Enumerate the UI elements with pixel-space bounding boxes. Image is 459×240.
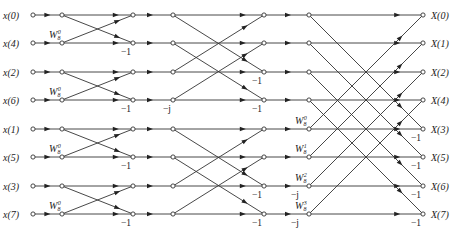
node-circle bbox=[307, 41, 311, 45]
twiddle-factor-label: W28 bbox=[295, 172, 307, 184]
node-circle bbox=[262, 155, 266, 159]
input-label: x(5) bbox=[2, 152, 20, 164]
arrow-head-icon bbox=[147, 212, 153, 216]
arrow-head-icon bbox=[240, 127, 246, 131]
node-circle bbox=[60, 70, 64, 74]
arrow-head-icon bbox=[241, 167, 247, 172]
node-circle bbox=[131, 98, 135, 102]
arrow-head-icon bbox=[285, 13, 291, 17]
arrow-head-icon bbox=[114, 91, 120, 95]
fft-butterfly-diagram: x(0)x(4)x(2)x(6)x(1)x(5)x(3)x(7)−1−1−1−1… bbox=[0, 0, 459, 240]
arrow-head-icon bbox=[44, 98, 50, 102]
arrow-head-icon bbox=[394, 98, 400, 102]
arrow-head-icon bbox=[114, 77, 120, 81]
output-label: X(0) bbox=[430, 10, 449, 22]
minus-one-label: −1 bbox=[252, 104, 262, 114]
node-circle bbox=[262, 127, 266, 131]
node-circle bbox=[31, 155, 35, 159]
arrow-head-icon bbox=[114, 191, 120, 195]
arrow-head-icon bbox=[147, 98, 153, 102]
arrow-head-icon bbox=[113, 13, 119, 17]
twiddle-factor-label: W08 bbox=[49, 143, 61, 155]
output-label: X(7) bbox=[430, 209, 449, 221]
output-label: X(2) bbox=[430, 67, 449, 79]
arrow-head-icon bbox=[147, 41, 153, 45]
node-circle bbox=[262, 212, 266, 216]
arrow-head-icon bbox=[285, 212, 291, 216]
arrow-head-icon bbox=[240, 184, 246, 188]
node-circle bbox=[131, 155, 135, 159]
node-circle bbox=[131, 212, 135, 216]
minus-one-label: −1 bbox=[252, 190, 262, 200]
minus-one-label: −1 bbox=[411, 190, 421, 200]
node-circle bbox=[171, 127, 175, 131]
arrow-head-icon bbox=[394, 155, 400, 159]
node-circle bbox=[131, 41, 135, 45]
arrow-head-icon bbox=[147, 70, 153, 74]
arrow-head-icon bbox=[113, 212, 119, 216]
arrow-head-icon bbox=[285, 155, 291, 159]
arrow-head-icon bbox=[241, 53, 247, 58]
minus-one-label: −1 bbox=[121, 47, 131, 57]
output-label: X(3) bbox=[430, 124, 449, 136]
arrow-head-icon bbox=[44, 212, 50, 216]
arrow-head-icon bbox=[44, 155, 50, 159]
arrow-head-icon bbox=[240, 13, 246, 17]
node-circle bbox=[31, 98, 35, 102]
minus-one-label: −1 bbox=[252, 76, 262, 86]
node-circle bbox=[262, 98, 266, 102]
node-circle bbox=[171, 155, 175, 159]
node-circle bbox=[421, 70, 425, 74]
node-circle bbox=[307, 13, 311, 17]
twiddle-factor-label: W08 bbox=[49, 29, 61, 41]
node-circle bbox=[262, 13, 266, 17]
input-label: x(4) bbox=[2, 38, 20, 50]
arrow-head-icon bbox=[240, 41, 246, 45]
node-circle bbox=[171, 98, 175, 102]
minus-one-label: −1 bbox=[252, 218, 262, 228]
twiddle-factor-label: W08 bbox=[49, 200, 61, 212]
node-circle bbox=[307, 212, 311, 216]
node-circle bbox=[131, 184, 135, 188]
node-circle bbox=[307, 184, 311, 188]
twiddle-factor-label: W38 bbox=[295, 200, 307, 212]
node-circle bbox=[31, 184, 35, 188]
node-circle bbox=[421, 13, 425, 17]
arrow-head-icon bbox=[240, 98, 246, 102]
node-circle bbox=[421, 212, 425, 216]
minus-one-label: −1 bbox=[411, 161, 421, 171]
node-circle bbox=[421, 98, 425, 102]
arrow-head-icon bbox=[44, 184, 50, 188]
arrow-head-icon bbox=[285, 184, 291, 188]
arrow-head-icon bbox=[240, 155, 246, 159]
minus-one-label: −1 bbox=[411, 133, 421, 143]
arrow-head-icon bbox=[147, 184, 153, 188]
arrow-head-icon bbox=[114, 205, 120, 209]
arrow-head-icon bbox=[44, 127, 50, 131]
input-label: x(0) bbox=[2, 10, 20, 22]
arrow-head-icon bbox=[114, 148, 120, 152]
arrow-head-icon bbox=[240, 212, 246, 216]
node-circle bbox=[307, 70, 311, 74]
node-circle bbox=[60, 184, 64, 188]
arrow-head-icon bbox=[44, 41, 50, 45]
edges-layer bbox=[33, 15, 423, 214]
arrow-head-icon bbox=[241, 139, 247, 144]
minus-one-label: −1 bbox=[121, 161, 131, 171]
arrow-head-icon bbox=[241, 85, 247, 90]
labels-layer: x(0)x(4)x(2)x(6)x(1)x(5)x(3)x(7)−1−1−1−1… bbox=[2, 10, 449, 229]
node-circle bbox=[31, 41, 35, 45]
input-label: x(1) bbox=[2, 124, 20, 136]
node-circle bbox=[31, 13, 35, 17]
arrow-head-icon bbox=[114, 20, 120, 24]
arrow-head-icon bbox=[394, 212, 400, 216]
node-circle bbox=[421, 41, 425, 45]
node-circle bbox=[131, 127, 135, 131]
node-circle bbox=[421, 155, 425, 159]
arrow-head-icon bbox=[285, 70, 291, 74]
node-circle bbox=[262, 41, 266, 45]
arrow-head-icon bbox=[241, 57, 247, 62]
arrow-head-icon bbox=[113, 127, 119, 131]
node-circle bbox=[31, 70, 35, 74]
arrow-head-icon bbox=[113, 184, 119, 188]
